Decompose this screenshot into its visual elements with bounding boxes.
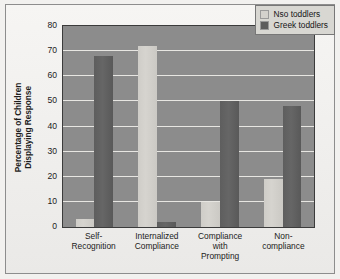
- bar-chart-figure: Percentage of Children Displaying Respon…: [0, 0, 340, 279]
- gridline: [63, 50, 314, 51]
- x-axis-tick-label: Non-compliance: [252, 231, 315, 275]
- x-axis-tick-label-line: Self-: [63, 231, 124, 241]
- x-axis-tick-label-line: Non-: [253, 231, 314, 241]
- legend-label-greek: Greek toddlers: [274, 20, 328, 31]
- x-axis-tick-label-line: Compliance: [126, 241, 187, 251]
- bar-greek: [283, 106, 302, 227]
- x-axis-tick-labels: Self-RecognitionInternalizedComplianceCo…: [62, 231, 315, 275]
- bar-greek: [220, 101, 239, 227]
- x-axis-tick-label-line: Internalized: [126, 231, 187, 241]
- bar-greek: [157, 222, 176, 227]
- legend-item-greek: Greek toddlers: [260, 20, 328, 31]
- x-axis-tick-label-line: with: [190, 241, 251, 251]
- x-axis-tick-label: InternalizedCompliance: [125, 231, 188, 275]
- x-axis-tick-label: CompliancewithPrompting: [189, 231, 252, 275]
- y-axis-title-line-2: Displaying Response: [24, 82, 34, 171]
- x-axis-tick-label-line: Recognition: [63, 241, 124, 251]
- legend-swatch-icon-greek: [260, 21, 269, 30]
- legend-item-nso: Nso toddlers: [260, 9, 328, 20]
- bar-nso: [138, 46, 157, 227]
- x-axis-tick-label-line: Compliance: [190, 231, 251, 241]
- legend-swatch-icon-nso: [260, 10, 269, 19]
- y-axis-title: Percentage of Children Displaying Respon…: [9, 25, 39, 229]
- bar-nso: [201, 202, 220, 227]
- legend-label-nso: Nso toddlers: [274, 9, 321, 20]
- x-axis-tick-label-line: compliance: [253, 241, 314, 251]
- y-axis-title-line-1: Percentage of Children: [14, 82, 24, 171]
- bar-greek: [94, 56, 113, 227]
- x-axis-tick-label: Self-Recognition: [62, 231, 125, 275]
- bar-nso: [264, 179, 283, 227]
- legend: Nso toddlers Greek toddlers: [255, 5, 335, 35]
- x-axis-tick-label-line: Prompting: [190, 251, 251, 261]
- bar-nso: [76, 219, 95, 227]
- plot-area: [62, 25, 315, 228]
